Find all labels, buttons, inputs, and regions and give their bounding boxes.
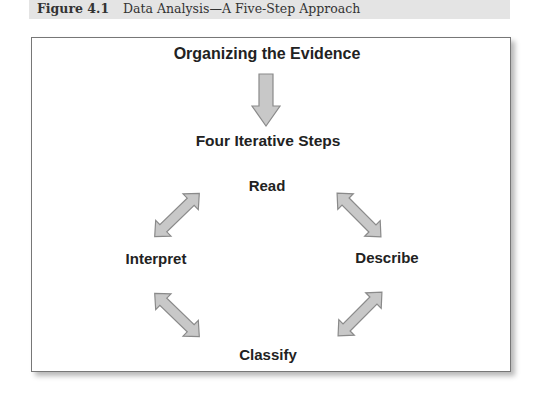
step-classify: Classify xyxy=(239,346,297,364)
double-arrow-icon-upper-left xyxy=(147,186,207,245)
node-organizing-evidence: Organizing the Evidence xyxy=(174,45,361,63)
double-arrow-icon-upper-right xyxy=(329,185,388,244)
step-read: Read xyxy=(249,177,286,195)
down-arrow-icon xyxy=(252,74,280,126)
step-interpret: Interpret xyxy=(126,250,187,268)
step-describe: Describe xyxy=(355,249,418,267)
double-arrow-icon-lower-left xyxy=(147,286,207,345)
node-four-iterative-steps: Four Iterative Steps xyxy=(196,132,341,150)
double-arrow-icon-lower-right xyxy=(330,284,389,343)
